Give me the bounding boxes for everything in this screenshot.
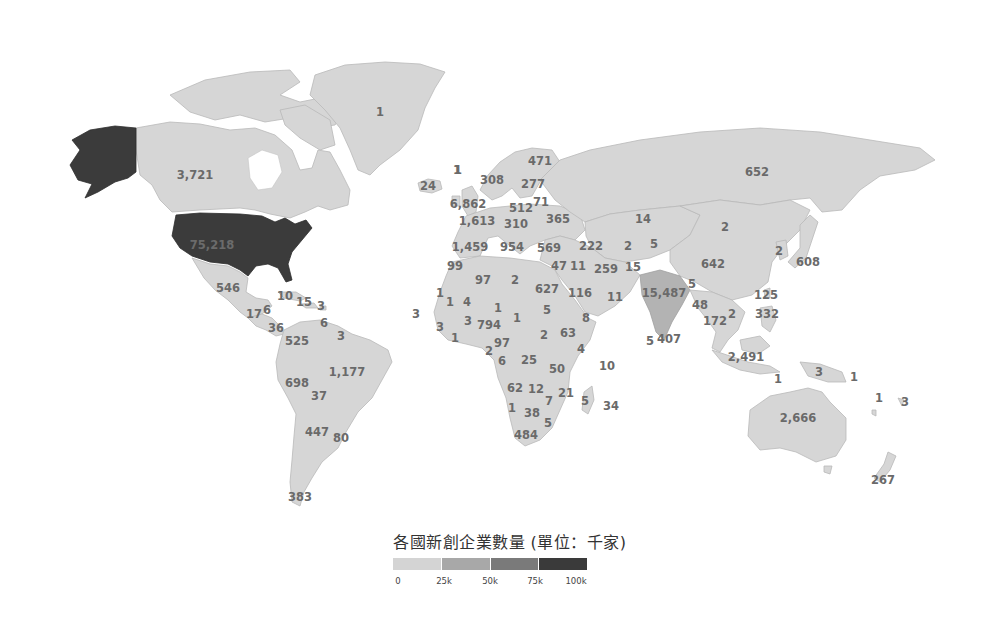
- region-label: 222: [579, 241, 603, 253]
- region-label: 2,666: [780, 413, 816, 425]
- region-label: 484: [514, 430, 538, 442]
- region-label: 3: [815, 367, 823, 379]
- tasmania: [824, 466, 832, 474]
- region-label: 1: [494, 303, 502, 315]
- legend-tick: 100k: [565, 576, 586, 586]
- region-label: 172: [703, 316, 727, 328]
- region-label: 47: [551, 261, 567, 273]
- legend-tick: 25k: [436, 576, 452, 586]
- region-label: 308: [480, 175, 504, 187]
- region-label: 38: [524, 408, 540, 420]
- region-label: 5: [581, 396, 589, 408]
- region-label: 116: [568, 288, 592, 300]
- region-label: 383: [288, 492, 312, 504]
- region-label: 447: [305, 427, 329, 439]
- region-label: 652: [745, 167, 769, 179]
- region-label: 97: [475, 275, 491, 287]
- region-label: 10: [599, 361, 615, 373]
- region-label: 1,177: [329, 367, 365, 379]
- region-label: 5: [646, 336, 654, 348]
- region-label: 21: [558, 388, 574, 400]
- region-label: 6,862: [450, 199, 486, 211]
- legend: 各國新創企業數量 (單位：千家) 025k50k75k100k: [393, 529, 623, 590]
- region-label: 5: [543, 305, 551, 317]
- region-label: 3: [901, 397, 909, 409]
- region-label: 24: [420, 181, 436, 193]
- region-label: 6: [320, 318, 328, 330]
- region-label: 277: [521, 179, 545, 191]
- region-label: 3: [337, 331, 345, 343]
- region-label: 36: [268, 323, 284, 335]
- region-label: 2,491: [728, 352, 764, 364]
- region-label: 2: [728, 309, 736, 321]
- region-label: 25: [521, 355, 537, 367]
- region-label: 5: [544, 418, 552, 430]
- region-label: 15: [625, 262, 641, 274]
- region-label: 1,613: [459, 216, 495, 228]
- region-label: 2: [721, 222, 729, 234]
- region-label: 15: [296, 297, 312, 309]
- region-label: 6: [263, 305, 271, 317]
- region-label: 794: [477, 320, 501, 332]
- india: [640, 270, 690, 340]
- region-label: 3,721: [177, 170, 213, 182]
- region-label: 1: [774, 374, 782, 386]
- region-label: 15,487: [642, 288, 686, 300]
- region-label: 14: [635, 214, 651, 226]
- region-label: 471: [528, 156, 552, 168]
- region-label: 1: [850, 372, 858, 384]
- region-label: 6: [498, 356, 506, 368]
- legend-swatch: [393, 558, 442, 570]
- region-label: 954: [500, 242, 524, 254]
- legend-title: 各國新創企業數量 (單位：千家): [393, 529, 623, 553]
- region-label: 3: [317, 301, 325, 313]
- region-label: 5: [650, 239, 658, 251]
- region-label: 3: [436, 322, 444, 334]
- region-label: 11: [607, 292, 623, 304]
- region-label: 332: [755, 309, 779, 321]
- region-label: 1,459: [452, 242, 488, 254]
- region-label: 11: [570, 261, 586, 273]
- region-label: 267: [871, 475, 895, 487]
- region-label: 71: [533, 197, 549, 209]
- region-label: 10: [277, 291, 293, 303]
- legend-swatch: [539, 558, 587, 570]
- region-label: 365: [546, 214, 570, 226]
- region-label: 525: [285, 336, 309, 348]
- legend-tick: 0: [395, 576, 400, 586]
- region-label: 1: [451, 333, 459, 345]
- region-label: 97: [494, 338, 510, 350]
- region-label: 512: [509, 203, 533, 215]
- region-label: 12: [528, 384, 544, 396]
- region-label: 2: [624, 241, 632, 253]
- legend-color-scale: [393, 558, 587, 570]
- region-label: 1: [508, 403, 516, 415]
- region-label: 37: [311, 391, 327, 403]
- region-label: 3: [464, 316, 472, 328]
- region-label: 7: [545, 396, 553, 408]
- region-label: 407: [657, 334, 681, 346]
- region-label: 642: [701, 259, 725, 271]
- region-label: 1: [875, 393, 883, 405]
- region-label: 2: [511, 275, 519, 287]
- region-label: 34: [603, 401, 619, 413]
- region-label: 2: [485, 346, 493, 358]
- region-label: 1: [436, 288, 444, 300]
- legend-tick: 75k: [527, 576, 543, 586]
- region-label: 63: [560, 328, 576, 340]
- region-label: 546: [216, 283, 240, 295]
- legend-swatch: [442, 558, 491, 570]
- region-label: 80: [333, 433, 349, 445]
- region-label: 2: [540, 330, 548, 342]
- region-label: 8: [582, 313, 590, 325]
- region-label: 1: [513, 313, 521, 325]
- region-label: 627: [535, 284, 559, 296]
- region-label: 4: [463, 297, 471, 309]
- region-label: 50: [549, 364, 565, 376]
- region-label: 310: [504, 219, 528, 231]
- region-label: 48: [692, 300, 708, 312]
- region-label: 1: [453, 165, 461, 177]
- region-label: 259: [594, 264, 618, 276]
- legend-swatch: [491, 558, 540, 570]
- region-label: 62: [507, 383, 523, 395]
